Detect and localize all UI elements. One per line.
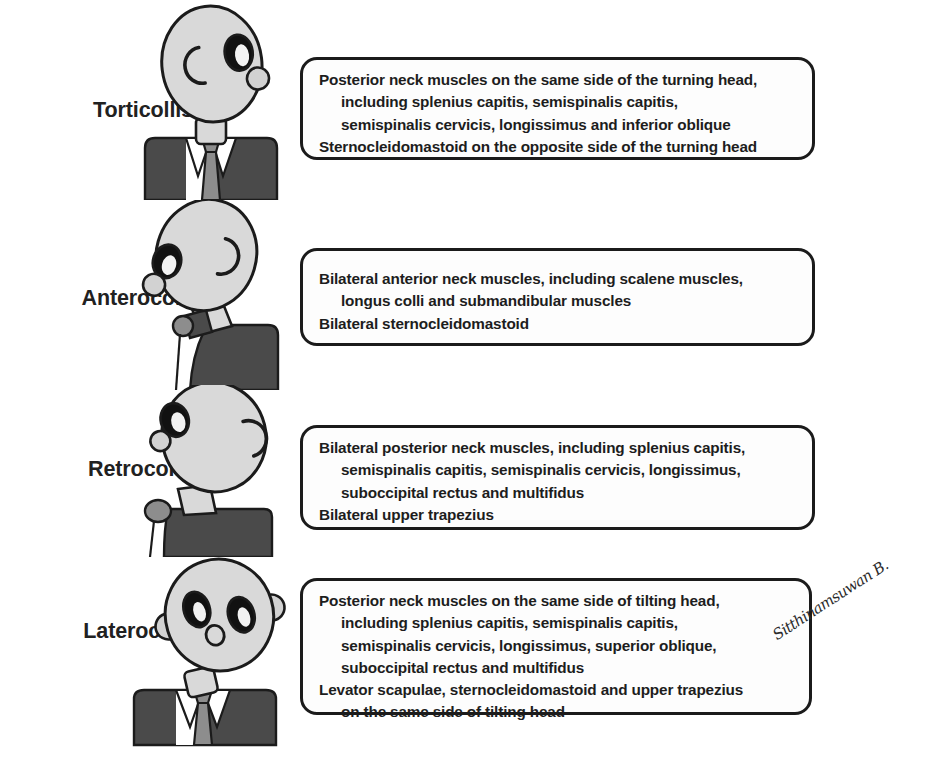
dystonia-row-anterocollis: Anterocollis xyxy=(0,200,927,385)
laterocollis-figure xyxy=(128,557,313,759)
callout-line: Sternocleidomastoid on the opposite side… xyxy=(319,136,798,158)
callout-line: Posterior neck muscles on the same side … xyxy=(319,590,795,612)
callout-line: semispinalis capitis, semispinalis cervi… xyxy=(319,459,798,481)
muscle-callout-anterocollis: Bilateral anterior neck muscles, includi… xyxy=(300,248,815,346)
dystonia-row-torticollis: Torticollis xyxy=(0,0,927,200)
callout-line: Bilateral sternocleidomastoid xyxy=(319,313,798,335)
front-line xyxy=(150,521,154,557)
callout-line: Bilateral upper trapezius xyxy=(319,504,798,526)
head-shape xyxy=(140,385,278,506)
callout-line: Bilateral anterior neck muscles, includi… xyxy=(319,268,798,290)
suit-shape xyxy=(145,138,277,200)
front-line xyxy=(176,334,180,390)
muscle-callout-laterocollis: Posterior neck muscles on the same side … xyxy=(300,578,812,715)
cervical-dystonia-diagram: Torticollis xyxy=(0,0,927,759)
callout-line: including splenius capitis, semispinalis… xyxy=(319,612,795,634)
callout-line: suboccipital rectus and multifidus xyxy=(319,657,795,679)
muscle-callout-retrocollis: Bilateral posterior neck muscles, includ… xyxy=(300,425,815,530)
head-shape xyxy=(155,0,273,128)
callout-line: on the same side of tilting head xyxy=(319,701,795,723)
callout-line: including splenius capitis, semispinalis… xyxy=(319,91,798,113)
dystonia-row-retrocollis: Retrocollis xyxy=(0,385,927,557)
chin-marker xyxy=(145,500,171,522)
chin-marker xyxy=(173,316,193,336)
callout-line: suboccipital rectus and multifidus xyxy=(319,482,798,504)
suit-shape xyxy=(164,509,272,557)
head-shape xyxy=(141,557,298,688)
anterocollis-figure xyxy=(128,200,313,385)
torticollis-figure xyxy=(128,0,313,200)
muscle-callout-torticollis: Posterior neck muscles on the same side … xyxy=(300,57,815,160)
callout-line: longus colli and submandibular muscles xyxy=(319,290,798,312)
suit-shape xyxy=(134,690,276,745)
callout-line: Posterior neck muscles on the same side … xyxy=(319,69,798,91)
callout-line: Levator scapulae, sternocleidomastoid an… xyxy=(319,679,795,701)
callout-line: semispinalis cervicis, longissimus and i… xyxy=(319,114,798,136)
callout-line: Bilateral posterior neck muscles, includ… xyxy=(319,437,798,459)
retrocollis-figure xyxy=(128,385,313,557)
callout-line: semispinalis cervicis, longissimus, supe… xyxy=(319,635,795,657)
head-shape xyxy=(140,200,270,323)
ear-shape xyxy=(246,66,271,91)
